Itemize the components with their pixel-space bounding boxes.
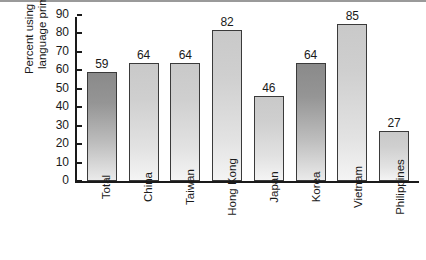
y-axis-tick-label: 0 — [43, 173, 69, 187]
x-axis-label-cell: Japan — [247, 185, 289, 257]
bar-value-label: 64 — [304, 48, 317, 62]
x-axis-label-cell: Taiwan — [163, 185, 205, 257]
y-axis-tick-label: 10 — [43, 155, 69, 169]
y-axis-tick-label: 80 — [43, 25, 69, 39]
bar-value-label: 59 — [95, 57, 108, 71]
y-axis-title-line-1: Percent using native — [23, 0, 36, 74]
x-axis-category-label: Philippines — [394, 159, 406, 215]
bar-value-label: 64 — [137, 48, 150, 62]
bar-cell: 46 — [248, 17, 290, 181]
x-axis-label-cell: Vietnam — [331, 185, 373, 257]
bar-series: 5964648246648527 — [77, 17, 419, 181]
bar-cell: 64 — [290, 17, 332, 181]
bar-value-label: 64 — [179, 48, 192, 62]
x-axis-category-label: Total — [100, 175, 112, 199]
y-axis-tick-label: 60 — [43, 62, 69, 76]
bar[interactable]: 59 — [87, 72, 117, 181]
x-axis-label-cell: Total — [79, 185, 121, 257]
bar-cell: 59 — [81, 17, 123, 181]
plot-area: 9080706050403020100 5964648246648527 — [75, 17, 419, 183]
bar-value-label: 46 — [262, 81, 275, 95]
y-axis-tick-label: 50 — [43, 81, 69, 95]
bar[interactable]: 64 — [296, 63, 326, 181]
bar-chart-figure: Percent using native language primarily … — [0, 0, 426, 260]
x-axis-label-cell: Korea — [289, 185, 331, 257]
x-axis-category-label: Japan — [268, 171, 280, 202]
y-axis-tick-label: 40 — [43, 99, 69, 113]
y-axis-tick-label: 70 — [43, 44, 69, 58]
x-axis-category-label: China — [142, 172, 154, 202]
x-axis-category-label: Vietnam — [352, 166, 364, 208]
bar-cell: 64 — [165, 17, 207, 181]
x-axis-label-cell: Philippines — [373, 185, 415, 257]
y-axis-tick-label: 90 — [43, 7, 69, 21]
bar-value-label: 85 — [346, 9, 359, 23]
x-axis-category-label: Hong Kong — [226, 158, 238, 216]
x-axis-category-label: Korea — [310, 172, 322, 203]
bar-cell: 27 — [373, 17, 415, 181]
bar-value-label: 82 — [220, 15, 233, 29]
bar[interactable]: 64 — [129, 63, 159, 181]
bar-value-label: 27 — [387, 116, 400, 130]
bar[interactable]: 85 — [337, 24, 367, 181]
bar-cell: 85 — [332, 17, 374, 181]
x-axis-label-cell: Hong Kong — [205, 185, 247, 257]
x-axis-category-label: Taiwan — [184, 169, 196, 205]
bar[interactable]: 64 — [170, 63, 200, 181]
x-axis-labels: TotalChinaTaiwanHong KongJapanKoreaVietn… — [75, 185, 419, 257]
bar[interactable]: 46 — [254, 96, 284, 181]
bar-cell: 64 — [123, 17, 165, 181]
x-axis-label-cell: China — [121, 185, 163, 257]
y-axis-tick-mark — [77, 14, 82, 16]
y-axis-tick-label: 20 — [43, 136, 69, 150]
y-axis-tick-label: 30 — [43, 118, 69, 132]
bar-cell: 82 — [206, 17, 248, 181]
